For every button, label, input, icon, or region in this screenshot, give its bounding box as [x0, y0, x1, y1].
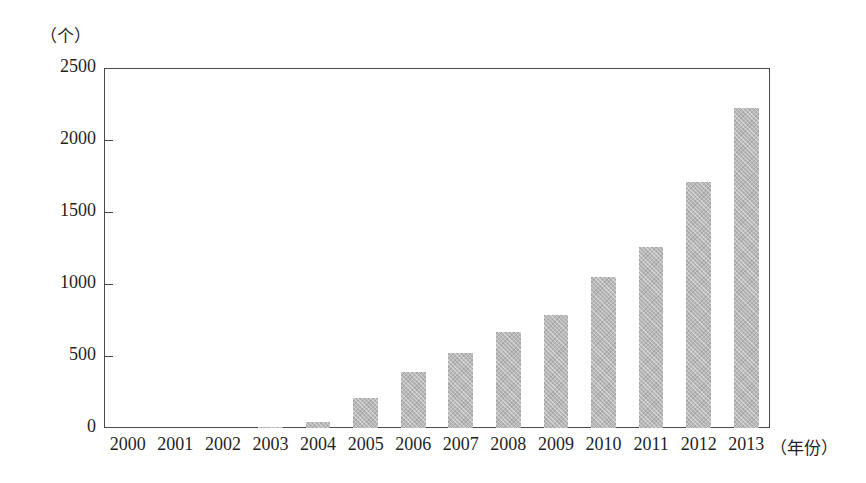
bar — [591, 277, 616, 428]
x-axis-tick-label: 2001 — [152, 434, 200, 455]
x-axis-tick-label: 2007 — [437, 434, 485, 455]
x-axis-tick-label: 2012 — [675, 434, 723, 455]
y-axis-tick-mark — [104, 284, 113, 285]
y-axis-tick-label: 500 — [36, 344, 96, 365]
bar — [448, 353, 473, 428]
y-axis-tick-label: 1000 — [36, 272, 96, 293]
x-axis-tick-label: 2006 — [389, 434, 437, 455]
x-axis-tick-label: 2004 — [294, 434, 342, 455]
y-axis-tick-mark — [104, 212, 113, 213]
x-axis-tick-label: 2005 — [342, 434, 390, 455]
x-axis-tick-label: 2010 — [580, 434, 628, 455]
y-axis-tick-label: 1500 — [36, 200, 96, 221]
bar — [544, 315, 569, 428]
y-axis-tick-label: 2000 — [36, 128, 96, 149]
x-axis-tick-label: 2002 — [199, 434, 247, 455]
x-axis-ticks: 2000200120022003200420052006200720082009… — [104, 434, 770, 464]
x-axis-unit-label: （年份） — [770, 434, 838, 459]
y-axis-tick-label: 2500 — [36, 56, 96, 77]
y-axis-tick-label: 0 — [36, 416, 96, 437]
bar — [686, 182, 711, 428]
bar — [258, 427, 283, 428]
bar — [734, 108, 759, 428]
x-axis-tick-label: 2011 — [627, 434, 675, 455]
x-axis-tick-label: 2009 — [532, 434, 580, 455]
bar — [496, 332, 521, 428]
bar — [639, 247, 664, 428]
x-axis-tick-label: 2008 — [485, 434, 533, 455]
y-axis-tick-mark — [104, 356, 113, 357]
bar — [401, 372, 426, 428]
y-axis-tick-mark — [104, 140, 113, 141]
bars-container — [104, 68, 770, 428]
bar-chart: （个） 25002000150010005000 200020012002200… — [0, 0, 866, 483]
x-axis-tick-label: 2003 — [247, 434, 295, 455]
y-axis-ticks: 25002000150010005000 — [0, 0, 104, 483]
x-axis-tick-label: 2000 — [104, 434, 152, 455]
bar — [353, 398, 378, 428]
bar — [306, 422, 331, 428]
x-axis-tick-label: 2013 — [722, 434, 770, 455]
